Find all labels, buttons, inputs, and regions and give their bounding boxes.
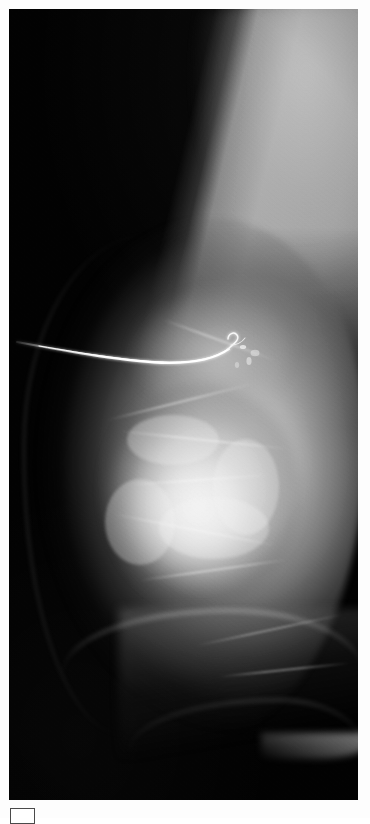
mammogram-image	[9, 9, 358, 800]
film-vignette-overlay	[9, 9, 358, 800]
caption-marker-box	[10, 808, 35, 824]
